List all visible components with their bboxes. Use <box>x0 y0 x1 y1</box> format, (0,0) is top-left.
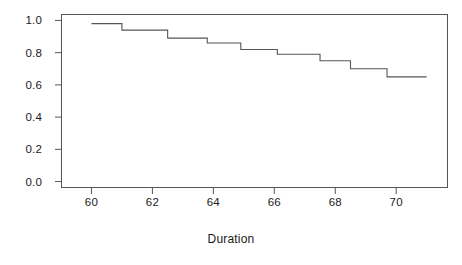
x-tick-label: 66 <box>254 196 294 208</box>
x-tick-label: 60 <box>71 196 111 208</box>
y-tick-label: 0.2 <box>8 143 42 155</box>
y-tick-label: 0.4 <box>8 111 42 123</box>
x-tick-label: 68 <box>315 196 355 208</box>
y-axis-ticks <box>55 20 61 181</box>
x-axis-ticks <box>91 188 396 194</box>
x-axis-title: Duration <box>0 232 462 246</box>
x-tick-label: 62 <box>132 196 172 208</box>
x-tick-label: 64 <box>193 196 233 208</box>
x-tick-label: 70 <box>376 196 416 208</box>
survival-chart-figure: 0.00.20.40.60.81.0 606264666870 Duration <box>0 0 462 265</box>
y-tick-label: 1.0 <box>8 14 42 26</box>
plot-canvas <box>0 0 462 265</box>
survival-step-curve <box>91 24 426 77</box>
y-tick-label: 0.8 <box>8 47 42 59</box>
y-tick-label: 0.0 <box>8 176 42 188</box>
y-tick-label: 0.6 <box>8 79 42 91</box>
